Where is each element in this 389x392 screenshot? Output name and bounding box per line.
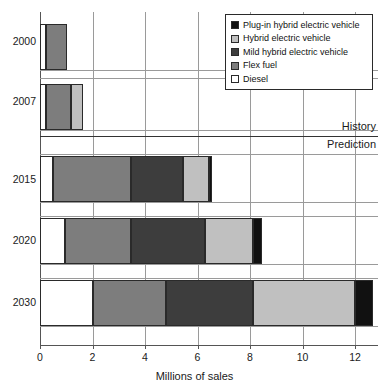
row-separator-3 [40,130,378,131]
segment-2020-hybrid [205,218,252,264]
chart-legend: Plug-in hybrid electric vehicle Hybrid e… [225,14,373,90]
x-tick-label-12: 12 [340,351,370,363]
segment-2015-hybrid [183,156,208,202]
x-tick-label-10: 10 [288,351,318,363]
legend-label-mild-hybrid: Mild hybrid electric vehicle [243,47,348,58]
legend-item-diesel: Diesel [231,73,367,85]
row-separator-4 [40,154,378,155]
tick-4 [145,345,146,349]
segment-2030-mild-hybrid [166,280,253,326]
x-tick-label-2: 2 [78,351,108,363]
legend-item-flex-fuel: Flex fuel [231,60,367,72]
segment-2015-plugin [209,156,213,202]
legend-swatch-icon-flex-fuel [231,62,239,70]
legend-swatch-icon-hybrid [231,35,239,43]
row-separator-6 [40,216,378,217]
tick-2 [93,345,94,349]
x-tick-label-0: 0 [25,351,55,363]
stacked-bar-chart: 2000 2007 2015 2020 2030 Hist [0,0,389,392]
x-axis-line [40,345,378,346]
y-axis-label-2000: 2000 [2,35,36,47]
history-prediction-divider [40,136,378,137]
segment-2007-hybrid [71,84,84,130]
segment-2015-flex-fuel [53,156,130,202]
segment-2015-mild-hybrid [131,156,184,202]
segment-2020-diesel [40,218,65,264]
row-separator-7 [40,264,378,265]
row-separator-8 [40,278,378,279]
tick-12 [355,345,356,349]
legend-swatch-icon-mild-hybrid [231,48,239,56]
y-axis-label-2020: 2020 [2,234,36,246]
tick-8 [250,345,251,349]
x-tick-label-4: 4 [130,351,160,363]
segment-2030-flex-fuel [93,280,167,326]
legend-item-mild-hybrid: Mild hybrid electric vehicle [231,46,367,58]
legend-swatch-icon-plugin-hybrid [231,21,239,29]
tick-10 [303,345,304,349]
row-separator-5 [40,202,378,203]
prediction-annotation: Prediction [327,138,376,150]
x-axis-title: Millions of sales [0,370,389,382]
history-annotation: History [342,120,376,132]
segment-2030-diesel [40,280,93,326]
row-separator-9 [40,326,378,327]
tick-6 [198,345,199,349]
legend-item-hybrid: Hybrid electric vehicle [231,33,367,45]
x-tick-label-6: 6 [183,351,213,363]
legend-label-diesel: Diesel [243,74,268,85]
segment-2007-flex-fuel [46,84,71,130]
segment-2020-mild-hybrid [131,218,206,264]
legend-item-plugin-hybrid: Plug-in hybrid electric vehicle [231,19,367,31]
legend-label-plugin-hybrid: Plug-in hybrid electric vehicle [243,20,360,31]
legend-label-flex-fuel: Flex fuel [243,60,277,71]
segment-2020-flex-fuel [65,218,131,264]
legend-label-hybrid: Hybrid electric vehicle [243,33,331,44]
segment-2030-plugin [355,280,373,326]
segment-2000-flex-fuel [46,24,67,70]
tick-0 [40,345,41,349]
y-axis-label-2007: 2007 [2,95,36,107]
segment-2015-diesel [40,156,53,202]
segment-2020-plugin [253,218,262,264]
y-axis-label-2030: 2030 [2,296,36,308]
segment-2030-hybrid [253,280,355,326]
y-axis-label-2015: 2015 [2,173,36,185]
legend-swatch-icon-diesel [231,75,239,83]
x-tick-label-8: 8 [235,351,265,363]
